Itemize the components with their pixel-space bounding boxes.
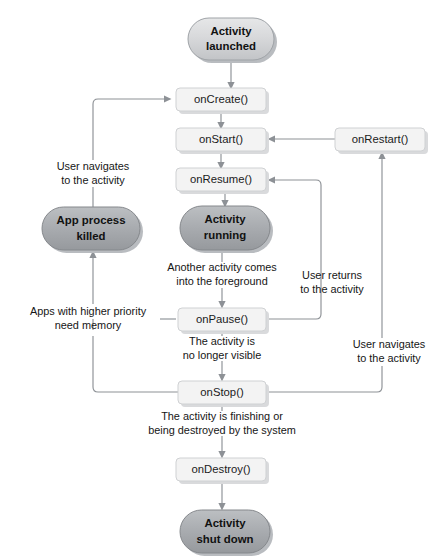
method-on-create-label: onCreate() — [194, 93, 248, 105]
edge-label-user-navigates-right-line2: to the activity — [357, 352, 421, 364]
state-activity-launched-line1: Activity — [210, 25, 252, 37]
edge-label-user-returns-line1: User returns — [302, 269, 362, 281]
method-on-start[interactable]: onStart() — [176, 128, 269, 154]
edge-label-no-longer-visible-line1: The activity is — [189, 335, 256, 347]
method-on-destroy[interactable]: onDestroy() — [176, 458, 269, 484]
edge-label-apps-higher-priority-line1: Apps with higher priority — [30, 305, 147, 317]
method-on-destroy-label: onDestroy() — [191, 463, 250, 475]
edge-label-activity-finishing: The activity is finishing or being destr… — [148, 410, 296, 436]
edge-pause-to-resume — [266, 176, 321, 319]
method-on-start-label: onStart() — [199, 133, 243, 145]
method-on-resume-label: onResume() — [190, 173, 252, 185]
edge-label-user-returns: User returns to the activity — [300, 269, 364, 295]
edge-label-another-activity-foreground-line2: into the foreground — [176, 275, 267, 287]
method-on-pause[interactable]: onPause() — [178, 308, 269, 334]
edge-restart-to-start — [268, 135, 336, 142]
state-activity-running[interactable]: Activity running — [180, 206, 273, 253]
edge-label-user-navigates-left-line2: to the activity — [61, 174, 125, 186]
edge-label-no-longer-visible: The activity is no longer visible — [183, 335, 262, 361]
edge-destroy-to-shutdown — [218, 481, 225, 511]
edge-label-user-navigates-right-line1: User navigates — [353, 338, 426, 350]
state-activity-shut-down[interactable]: Activity shut down — [180, 510, 273, 556]
edge-label-user-navigates-left-line1: User navigates — [57, 160, 130, 172]
state-activity-launched-line2: launched — [206, 40, 256, 52]
state-activity-shut-down-line2: shut down — [197, 533, 254, 545]
edge-stop-to-killed — [93, 336, 178, 392]
lifecycle-svg-canvas: Activity launched onCreate() onStart() o… — [0, 0, 446, 560]
edge-label-another-activity-foreground-line1: Another activity comes — [167, 261, 277, 273]
method-on-create[interactable]: onCreate() — [176, 88, 269, 114]
method-on-stop-label: onStop() — [200, 386, 244, 398]
state-activity-launched[interactable]: Activity launched — [188, 18, 277, 63]
state-activity-shut-down-line1: Activity — [204, 517, 246, 529]
activity-lifecycle-diagram: Activity launched onCreate() onStart() o… — [0, 0, 446, 560]
state-app-process-killed[interactable]: App process killed — [42, 207, 143, 253]
method-on-restart[interactable]: onRestart() — [335, 128, 428, 154]
method-on-restart-label: onRestart() — [352, 133, 409, 145]
state-activity-running-line2: running — [204, 229, 246, 241]
edge-launched-to-create — [227, 60, 234, 90]
edge-label-user-returns-line2: to the activity — [300, 283, 364, 295]
edge-label-another-activity-foreground: Another activity comes into the foregrou… — [167, 261, 277, 287]
edge-label-no-longer-visible-line2: no longer visible — [183, 349, 262, 361]
state-app-process-killed-line2: killed — [76, 230, 105, 242]
edge-killed-to-create — [93, 95, 172, 207]
edge-label-activity-finishing-line2: being destroyed by the system — [148, 424, 296, 436]
method-on-stop[interactable]: onStop() — [178, 381, 269, 407]
state-activity-running-line1: Activity — [204, 213, 246, 225]
method-on-resume[interactable]: onResume() — [176, 168, 269, 194]
method-on-pause-label: onPause() — [196, 313, 248, 325]
edge-label-apps-higher-priority: Apps with higher priority need memory — [30, 305, 147, 331]
state-app-process-killed-line1: App process — [57, 214, 126, 226]
edge-label-apps-higher-priority-line2: need memory — [55, 319, 122, 331]
edge-label-user-navigates-right: User navigates to the activity — [353, 338, 426, 364]
edge-label-user-navigates-left: User navigates to the activity — [57, 160, 130, 186]
edge-label-activity-finishing-line1: The activity is finishing or — [161, 410, 283, 422]
